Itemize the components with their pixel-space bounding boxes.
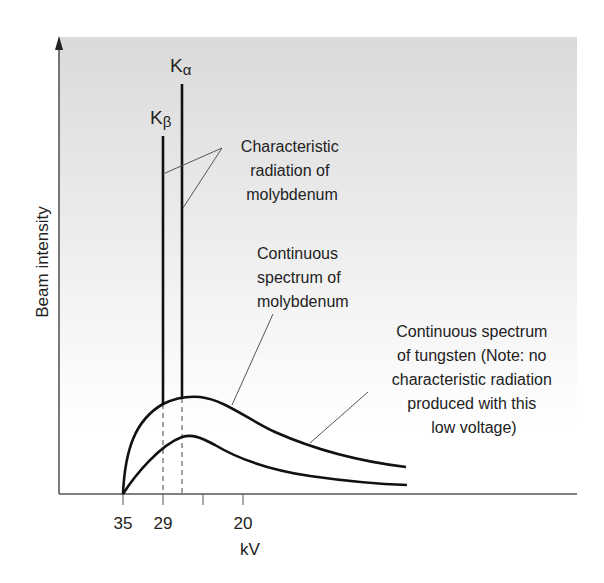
tick-label-29: 29 [154, 514, 173, 533]
x-axis-label: kV [240, 540, 261, 559]
y-axis-label: Beam intensity [33, 206, 52, 318]
tick-label-20: 20 [234, 514, 253, 533]
char-radiation-label: Characteristic radiation of molybdenum [241, 138, 343, 203]
cont-molybdenum-label: Continuous spectrum of molybdenum [257, 245, 349, 310]
tick-label-35: 35 [114, 514, 133, 533]
x-ticks [123, 494, 243, 505]
spectrum-diagram: Kα Kβ Characteristic radiation of molybd… [0, 0, 604, 583]
